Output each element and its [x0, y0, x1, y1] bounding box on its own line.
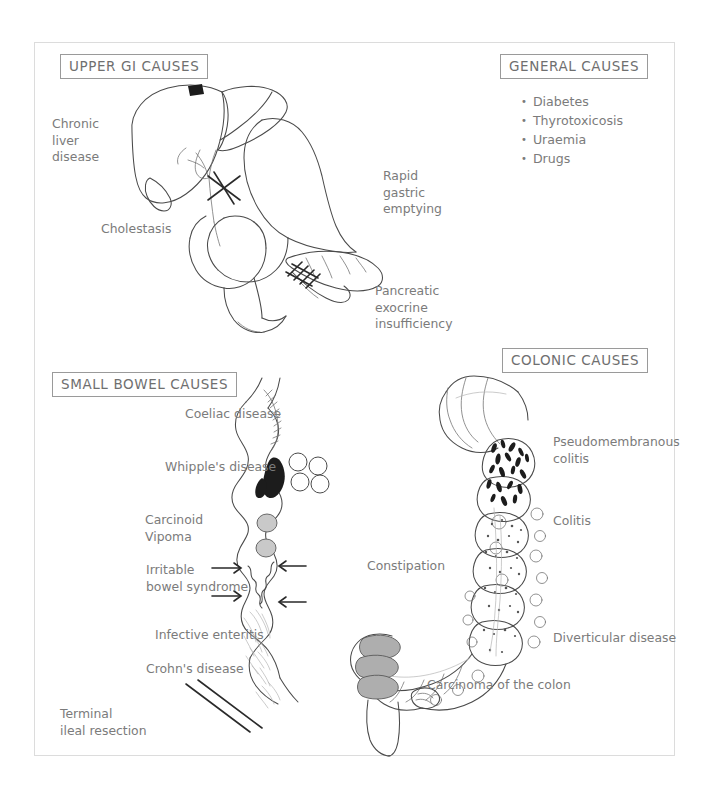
list-item: Uraemia: [521, 130, 623, 149]
general-causes-list: Diabetes Thyrotoxicosis Uraemia Drugs: [521, 92, 623, 168]
label-carcinoid-vipoma: Carcinoid Vipoma: [145, 512, 203, 545]
section-title-small-bowel: SMALL BOWEL CAUSES: [52, 372, 237, 397]
label-pancreatic-exocrine-insufficiency: Pancreatic exocrine insufficiency: [375, 283, 452, 333]
label-rapid-gastric-emptying: Rapid gastric emptying: [383, 168, 442, 218]
label-carcinoma-of-the-colon: Carcinoma of the colon: [427, 677, 571, 694]
label-cholestasis: Cholestasis: [101, 221, 171, 238]
label-colitis: Colitis: [553, 513, 591, 530]
section-title-colonic: COLONIC CAUSES: [502, 348, 648, 373]
label-crohns-disease: Crohn's disease: [146, 661, 244, 678]
label-chronic-liver-disease: Chronic liver disease: [52, 116, 99, 166]
section-title-upper-gi: UPPER GI CAUSES: [60, 54, 208, 79]
label-whipples-disease: Whipple's disease: [165, 459, 276, 476]
list-item: Thyrotoxicosis: [521, 111, 623, 130]
label-irritable-bowel-syndrome: Irritable bowel syndrome: [146, 562, 248, 595]
label-terminal-ileal-resection: Terminal ileal resection: [60, 706, 147, 739]
label-coeliac-disease: Coeliac disease: [185, 406, 281, 423]
label-infective-enteritis: Infective enteritis: [155, 627, 264, 644]
label-constipation: Constipation: [367, 558, 445, 575]
label-diverticular-disease: Diverticular disease: [553, 630, 676, 647]
section-title-general: GENERAL CAUSES: [500, 54, 648, 79]
diagram-page: UPPER GI CAUSES Chronic liver disease Ch…: [0, 0, 708, 792]
label-pseudomembranous-colitis: Pseudomembranous colitis: [553, 434, 680, 467]
list-item: Drugs: [521, 149, 623, 168]
list-item: Diabetes: [521, 92, 623, 111]
